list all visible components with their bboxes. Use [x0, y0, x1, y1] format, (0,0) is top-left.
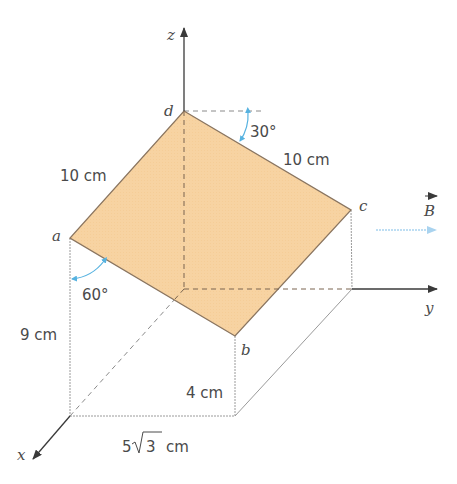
angle-30-label: 30° [250, 123, 277, 141]
y-axis-label: y [424, 299, 434, 317]
hidden-x-axis [70, 289, 184, 416]
a-height-label: 9 cm [20, 326, 57, 344]
x-axis-arrow [33, 416, 70, 459]
angle-60-label: 60° [82, 286, 109, 304]
b-height-label: 4 cm [186, 384, 223, 402]
dc-length-label: 10 cm [283, 151, 330, 169]
x-axis-label: x [17, 446, 26, 464]
vertex-d-label: d [164, 102, 174, 120]
field-label: B [423, 202, 435, 220]
edge-c-vertical [351, 210, 352, 289]
z-axis-label: z [166, 26, 175, 44]
vertex-b-label: b [241, 341, 251, 359]
diagram-canvas: z y x d a b c B 10 cm 10 cm 30° 60° 9 cm… [0, 0, 457, 484]
vertex-c-label: c [359, 197, 368, 215]
angle-arc-30 [240, 112, 248, 141]
ad-length-label: 10 cm [60, 167, 107, 185]
base-width-unit: cm [166, 438, 189, 456]
angle-arc-60 [72, 261, 104, 279]
base-width-label: 5 3 cm [122, 432, 189, 456]
plane-abcd [70, 111, 351, 336]
vertex-a-label: a [52, 227, 61, 245]
base-width-radicand: 3 [146, 438, 156, 456]
base-width-prefix: 5 [122, 438, 132, 456]
